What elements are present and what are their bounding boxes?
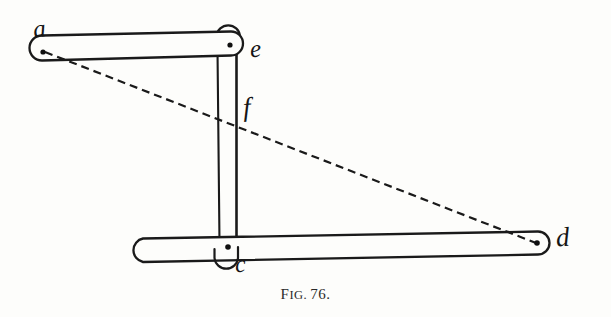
pivot-dot-e: [227, 42, 232, 47]
bottom-link-bar-c-d: [133, 232, 549, 263]
pivot-dot-c: [225, 244, 231, 250]
caption-number: 76.: [310, 286, 330, 302]
vertical-bar-left-edge: [218, 50, 220, 243]
linkage-drawing: [0, 0, 611, 317]
caption-prefix-rest: IG.: [289, 288, 307, 302]
top-link-bar-a-e: [30, 32, 243, 61]
point-label-a: a: [32, 15, 47, 41]
point-label-f: f: [242, 94, 251, 121]
figure-76-container: a e f c d FIG.76.: [0, 0, 611, 317]
construction-line-a-d: [45, 52, 536, 243]
figure-caption: FIG.76.: [0, 285, 611, 303]
point-label-c: c: [234, 252, 246, 277]
pivot-dot-a: [40, 49, 45, 54]
point-label-e: e: [249, 36, 262, 62]
point-label-d: d: [555, 224, 570, 252]
pivot-dot-d: [534, 240, 540, 246]
